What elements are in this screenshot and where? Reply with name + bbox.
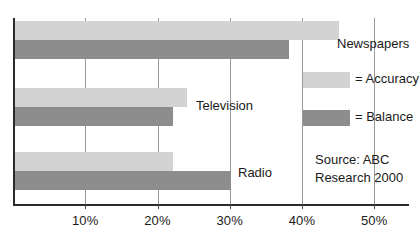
x-tick-label-30: 30%: [208, 213, 252, 228]
x-tick-label-50: 50%: [352, 213, 396, 228]
category-label-radio: Radio: [238, 165, 272, 180]
legend-label-accuracy: = Accuracy: [355, 71, 419, 86]
bar-television-accuracy: [14, 88, 187, 107]
x-tick-label-20: 20%: [136, 213, 180, 228]
bar-radio-balance: [14, 171, 231, 190]
x-tick-40: [302, 204, 303, 209]
x-axis-line: [13, 204, 409, 206]
bar-television-balance: [14, 107, 173, 126]
category-label-television: Television: [196, 98, 253, 113]
legend-label-balance: = Balance: [355, 109, 413, 124]
bar-chart: Newspapers Television Radio = Accuracy =…: [0, 0, 420, 248]
bar-newspapers-accuracy: [14, 21, 339, 40]
source-note-line-2: Research 2000: [315, 170, 403, 185]
bar-newspapers-balance: [14, 40, 289, 59]
bar-radio-accuracy: [14, 152, 173, 171]
x-tick-label-40: 40%: [280, 213, 324, 228]
x-tick-30: [230, 204, 231, 209]
x-tick-10: [85, 204, 86, 209]
x-tick-50: [374, 204, 375, 209]
category-label-newspapers: Newspapers: [337, 36, 409, 51]
x-tick-20: [158, 204, 159, 209]
legend-swatch-accuracy: [303, 72, 350, 88]
y-axis-line: [13, 18, 15, 206]
source-note-line-1: Source: ABC: [315, 152, 389, 167]
legend-swatch-balance: [303, 110, 350, 126]
x-tick-label-10: 10%: [63, 213, 107, 228]
